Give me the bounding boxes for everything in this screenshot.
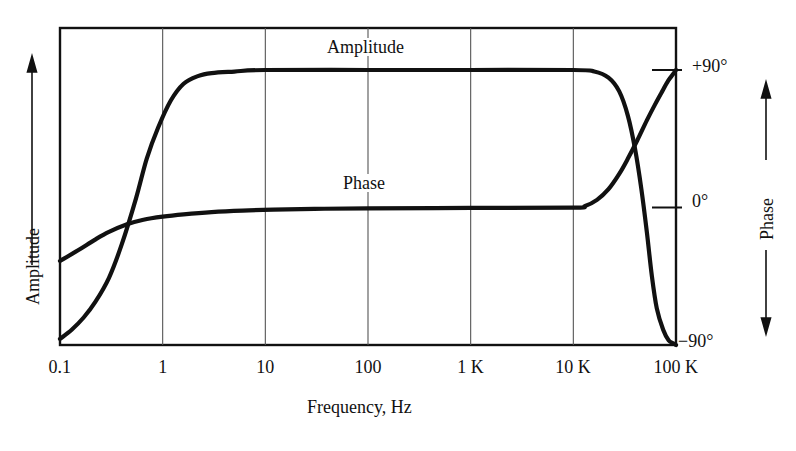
curve-label-phase: Phase [338,174,390,192]
x-axis-tick-label: 1 K [457,358,484,376]
right-axis-ticks [652,70,682,208]
y-right-tick-label-plus90: +90° [692,57,727,75]
y-right-tick-label-minus90: −90° [678,332,713,350]
x-axis-tick-label: 1 [158,358,167,376]
x-axis-tick-label: 0.1 [49,358,72,376]
y-right-axis-title: Phase [758,198,776,240]
y-right-tick-label-zero: 0° [692,192,708,210]
frequency-response-figure: Amplitude Phase 0.11101001 K10 K100 K +9… [0,0,796,451]
x-axis-tick-label: 10 K [555,358,591,376]
x-axis-tick-label: 10 [256,358,274,376]
x-axis-tick-label: 100 [355,358,382,376]
curve-label-amplitude: Amplitude [322,38,409,56]
x-axis-tick-label: 100 K [654,358,699,376]
x-axis-title: Frequency, Hz [307,398,412,416]
chart-canvas [0,0,796,451]
y-left-axis-title: Amplitude [24,228,42,305]
